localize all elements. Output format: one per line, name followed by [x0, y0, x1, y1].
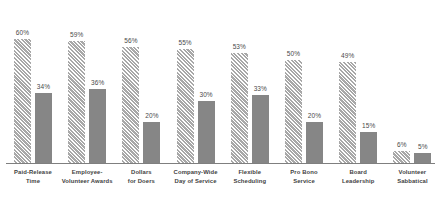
bar-rect[interactable]: [252, 95, 269, 163]
bar-group: 49%15%: [331, 0, 385, 163]
plot-area: 60%34%59%36%56%20%55%30%53%33%50%20%49%1…: [0, 0, 441, 163]
bar-rect[interactable]: [35, 93, 52, 163]
bar-group: 56%20%: [114, 0, 168, 163]
bar-rect[interactable]: [414, 153, 431, 163]
category-label-line: Sabbatical: [380, 177, 441, 186]
bar-value-label: 50%: [277, 50, 310, 58]
bar-value-label: 55%: [169, 39, 202, 47]
bar-rect[interactable]: [177, 49, 194, 163]
bar-value-label: 33%: [244, 85, 277, 93]
bar-chart: 60%34%59%36%56%20%55%30%53%33%50%20%49%1…: [0, 0, 441, 202]
bar-2[interactable]: 36%: [89, 89, 106, 164]
bar-rect[interactable]: [360, 132, 377, 163]
bar-group: 50%20%: [277, 0, 331, 163]
bar-rect[interactable]: [306, 122, 323, 163]
x-axis-category-label: VolunteerSabbatical: [380, 168, 441, 186]
bar-value-label: 36%: [81, 79, 114, 87]
bar-group: 53%33%: [223, 0, 277, 163]
bar-rect[interactable]: [393, 151, 410, 163]
bar-1[interactable]: 55%: [177, 49, 194, 163]
bar-2[interactable]: 33%: [252, 95, 269, 163]
bar-value-label: 15%: [352, 122, 385, 130]
bar-rect[interactable]: [143, 122, 160, 163]
bar-value-label: 59%: [60, 31, 93, 39]
bar-value-label: 60%: [6, 29, 39, 37]
bar-value-label: 5%: [406, 143, 439, 151]
bar-2[interactable]: 5%: [414, 153, 431, 163]
bar-rect[interactable]: [14, 39, 31, 163]
bar-group: 60%34%: [6, 0, 60, 163]
bar-1[interactable]: 53%: [231, 53, 248, 163]
bar-rect[interactable]: [89, 89, 106, 164]
bar-group: 55%30%: [169, 0, 223, 163]
bar-value-label: 49%: [331, 52, 364, 60]
bar-1[interactable]: 6%: [393, 151, 410, 163]
bar-1[interactable]: 49%: [339, 62, 356, 163]
bar-2[interactable]: 20%: [143, 122, 160, 163]
bar-value-label: 20%: [135, 112, 168, 120]
bar-value-label: 34%: [27, 83, 60, 91]
bar-rect[interactable]: [122, 47, 139, 163]
bar-2[interactable]: 30%: [198, 101, 215, 163]
bar-rect[interactable]: [198, 101, 215, 163]
bar-value-label: 20%: [298, 112, 331, 120]
bar-value-label: 53%: [223, 43, 256, 51]
category-label-line: Volunteer: [380, 168, 441, 177]
bar-group: 6%5%: [385, 0, 439, 163]
bar-1[interactable]: 56%: [122, 47, 139, 163]
bar-value-label: 30%: [190, 91, 223, 99]
bar-rect[interactable]: [339, 62, 356, 163]
bar-rect[interactable]: [68, 41, 85, 163]
bar-1[interactable]: 59%: [68, 41, 85, 163]
bar-2[interactable]: 34%: [35, 93, 52, 163]
x-axis-baseline: [6, 163, 435, 164]
bar-2[interactable]: 20%: [306, 122, 323, 163]
bar-1[interactable]: 60%: [14, 39, 31, 163]
bar-group: 59%36%: [60, 0, 114, 163]
bar-rect[interactable]: [231, 53, 248, 163]
bar-value-label: 56%: [114, 37, 147, 45]
bar-2[interactable]: 15%: [360, 132, 377, 163]
